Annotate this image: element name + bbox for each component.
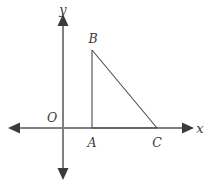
x-axis-right-arrowhead	[182, 123, 194, 134]
point-label-A: A	[86, 135, 96, 150]
y-axis-label: y	[58, 2, 67, 17]
triangle-side-BC	[92, 50, 157, 128]
y-axis-down-arrowhead	[58, 168, 69, 180]
point-label-C: C	[152, 135, 162, 150]
geometry-figure: y x O A B C	[0, 0, 214, 187]
x-axis-left-arrowhead	[8, 123, 20, 134]
x-axis-label: x	[196, 121, 204, 136]
origin-label: O	[47, 110, 57, 125]
point-label-B: B	[87, 31, 97, 46]
coordinate-plane-svg: y x O A B C	[0, 0, 214, 187]
